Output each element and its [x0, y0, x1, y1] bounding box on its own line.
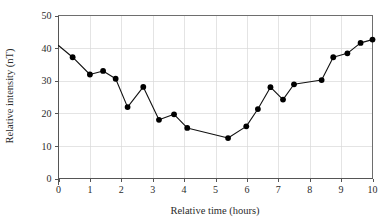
data-point [140, 84, 146, 90]
data-point [358, 40, 364, 46]
y-tick-label: 40 [42, 43, 52, 54]
data-point [319, 77, 325, 83]
data-point [171, 111, 177, 117]
x-tick-label: 10 [368, 184, 378, 195]
data-point [370, 37, 376, 43]
data-point [184, 125, 190, 131]
data-point [243, 123, 249, 129]
x-tick-label: 5 [213, 184, 218, 195]
x-tick-label: 2 [119, 184, 124, 195]
chart-figure: 012345678910 01020304050 Relative time (… [0, 0, 390, 224]
x-tick-label: 9 [339, 184, 344, 195]
data-point [344, 50, 350, 56]
data-point [87, 72, 93, 78]
x-tick-label: 4 [182, 184, 187, 195]
x-tick-label: 8 [307, 184, 312, 195]
data-point [268, 84, 274, 90]
y-axis-title: Relative intensity (nT) [4, 48, 16, 144]
y-tick-label: 20 [42, 108, 52, 119]
x-tick-label: 7 [276, 184, 281, 195]
data-point [70, 54, 76, 60]
data-point [255, 106, 261, 112]
y-tick-label: 30 [42, 75, 52, 86]
data-point [100, 68, 106, 74]
data-point [330, 54, 336, 60]
x-tick-label: 1 [87, 184, 92, 195]
data-point [125, 104, 131, 110]
data-point [225, 135, 231, 141]
data-point [156, 117, 162, 123]
data-point [280, 97, 286, 103]
data-point [291, 81, 297, 87]
line-chart: 012345678910 01020304050 Relative time (… [0, 0, 390, 224]
x-axis-title: Relative time (hours) [170, 205, 260, 217]
data-point [113, 76, 119, 82]
y-tick-label: 0 [47, 173, 52, 184]
y-tick-label: 50 [42, 10, 52, 21]
y-tick-label: 10 [42, 141, 52, 152]
x-tick-label: 6 [244, 184, 249, 195]
x-tick-label: 3 [150, 184, 155, 195]
x-tick-label: 0 [56, 184, 61, 195]
